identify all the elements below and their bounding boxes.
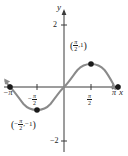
fraction: π2: [87, 93, 92, 107]
y-axis: [62, 9, 67, 152]
point-maximum: [88, 61, 94, 67]
sine-graph-figure: y x 2 −2 −π −π2 π2 π (π2,1) (−π2,−1): [0, 0, 128, 156]
y-value: −1: [25, 120, 32, 128]
y-tick-label-minus-2: −2: [50, 137, 59, 145]
x-axis: [4, 85, 117, 90]
x-tick-label-pi: π: [112, 89, 116, 97]
fraction-denominator: 2: [32, 100, 37, 106]
y-axis-label: y: [57, 3, 61, 12]
x-axis-label: x: [119, 88, 123, 97]
point-label-minimum: (−π2,−1): [11, 118, 36, 132]
fraction-numerator: π: [87, 93, 92, 100]
y-tick-label-2: 2: [53, 21, 57, 29]
fraction-denominator: 2: [87, 100, 92, 106]
x-tick-label-minus-pi-over-2: −π2: [28, 90, 37, 106]
fraction: π2: [32, 93, 37, 107]
close-paren: ): [33, 119, 36, 130]
close-paren: ): [84, 40, 87, 51]
x-tick-label-pi-over-2: π2: [87, 90, 92, 106]
x-tick-label-minus-pi: −π: [3, 89, 12, 97]
point-label-maximum: (π2,1): [70, 39, 87, 53]
point-minimum: [34, 107, 40, 113]
graph-canvas: [0, 0, 128, 156]
fraction-numerator: π: [32, 93, 37, 100]
